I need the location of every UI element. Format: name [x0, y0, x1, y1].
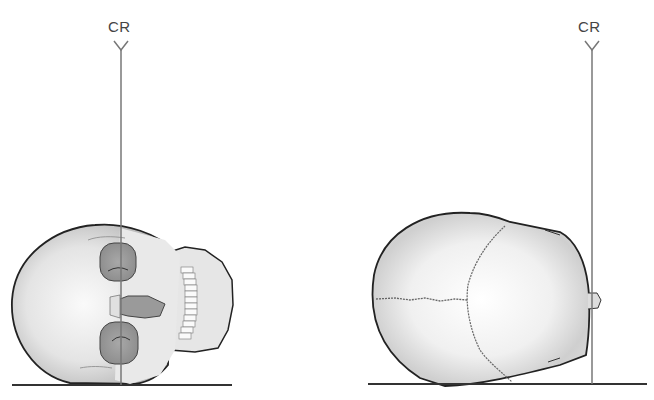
left-skull [12, 225, 233, 384]
skull-diagram-svg [0, 0, 654, 400]
right-skull [373, 213, 601, 386]
